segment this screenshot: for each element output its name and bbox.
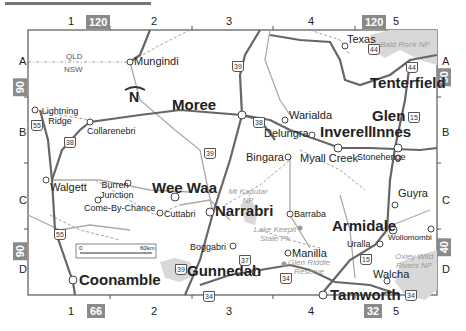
highway-shield-34b: 34 <box>203 291 215 302</box>
grid-row-b: B <box>19 126 26 138</box>
grid-col-1: 1 <box>68 15 74 27</box>
highway-shield-39b: 39 <box>204 148 216 159</box>
park-mt-kaputar: Mt Kaputar NP <box>228 187 268 205</box>
park-lake-keepit: Lake Keepit State Pk <box>250 225 300 243</box>
town-delungra[interactable]: Delungra <box>264 128 309 139</box>
town-moree[interactable]: Moree <box>172 97 216 112</box>
scale-start: 0 <box>79 245 82 251</box>
grid-row-d: D <box>19 263 27 275</box>
highway-shield-44b: 44 <box>406 62 418 73</box>
grid-col-4-bottom: 4 <box>308 305 314 317</box>
grid-row-a-right: A <box>442 55 449 67</box>
town-cuttabri[interactable]: Cuttabri <box>164 210 196 219</box>
town-gunnedah[interactable]: Gunnedah <box>187 263 261 278</box>
grid-row-a: A <box>19 55 26 67</box>
highway-shield-34d: 34 <box>405 290 417 301</box>
town-wollomombi[interactable]: Wollomombi <box>388 234 432 242</box>
highway-shield-38a: 38 <box>253 117 265 128</box>
town-burren-junction[interactable]: Burren Junction <box>100 180 130 200</box>
state-label-qld: QLD <box>66 53 82 61</box>
town-barraba[interactable]: Barraba <box>294 210 326 219</box>
park-oxley-wild-rivers: Oxley Wild Rivers NP <box>390 252 438 270</box>
town-mungindi[interactable]: Mungindi <box>134 56 179 67</box>
page-ref-right-bottom[interactable]: 40 <box>437 238 451 256</box>
town-bingara[interactable]: Bingara <box>246 152 284 163</box>
town-stonehenge[interactable]: Stonehenge <box>357 153 406 162</box>
grid-col-4: 4 <box>308 15 314 27</box>
page-ref-top-right[interactable]: 120 <box>362 15 386 29</box>
grid-col-5: 5 <box>393 15 399 27</box>
page-ref-left-top[interactable]: 90 <box>13 78 27 96</box>
town-tamworth[interactable]: Tamworth <box>330 287 401 302</box>
highway-shield-34a: 34 <box>280 273 292 284</box>
town-guyra[interactable]: Guyra <box>398 188 428 199</box>
town-walgett[interactable]: Walgett <box>50 182 87 193</box>
scale-end: 60km <box>140 245 155 251</box>
town-collarenebri[interactable]: Collarenebri <box>87 127 136 136</box>
town-narrabri[interactable]: Narrabri <box>215 203 273 218</box>
town-walcha[interactable]: Walcha <box>373 269 409 280</box>
highway-shield-55b: 55 <box>54 229 66 240</box>
grid-col-5-bottom: 5 <box>393 305 399 317</box>
grid-row-b-right: B <box>442 126 449 138</box>
grid-col-3-bottom: 3 <box>226 305 232 317</box>
highway-shield-55a: 55 <box>31 120 43 131</box>
grid-col-1-bottom: 1 <box>68 305 74 317</box>
town-wee-waa[interactable]: Wee Waa <box>152 180 217 195</box>
grid-row-d-right: D <box>442 263 450 275</box>
highway-shield-39a: 39 <box>232 61 244 72</box>
highway-shield-15a: 15 <box>408 112 420 123</box>
town-boggabri[interactable]: Boggabri <box>190 243 226 252</box>
grid-row-c-right: C <box>442 194 450 206</box>
town-uralla[interactable]: Uralla <box>347 240 371 249</box>
town-warialda[interactable]: Warialda <box>289 110 332 121</box>
state-label-nsw: NSW <box>64 66 83 74</box>
town-tenterfield[interactable]: Tenterfield <box>370 75 446 90</box>
town-myall-creek[interactable]: Myall Creek <box>300 153 358 164</box>
highway-shield-38b: 38 <box>64 137 76 148</box>
park-bald-rock: Bald Rock NP <box>380 41 430 49</box>
grid-col-2: 2 <box>151 15 157 27</box>
page-ref-bottom-left[interactable]: 66 <box>87 304 105 318</box>
town-armidale[interactable]: Armidale <box>332 218 396 233</box>
highway-shield-44a: 44 <box>368 44 380 55</box>
highway-shield-15b: 15 <box>360 254 372 265</box>
town-lightning-ridge[interactable]: Lightning Ridge <box>40 106 80 126</box>
grid-col-3: 3 <box>226 15 232 27</box>
highway-shield-39c: 39 <box>175 264 187 275</box>
grid-row-c: C <box>19 194 27 206</box>
highway-shield-37: 37 <box>239 255 251 266</box>
page-ref-bottom-right[interactable]: 32 <box>364 304 382 318</box>
page-ref-top-left[interactable]: 120 <box>86 15 110 29</box>
town-come-by-chance[interactable]: Come-By-Chance <box>84 204 156 213</box>
page-ref-left-bottom[interactable]: 90 <box>13 242 27 260</box>
north-arrow-label: N <box>129 90 139 104</box>
map-canvas[interactable] <box>0 0 466 331</box>
town-coonamble[interactable]: Coonamble <box>79 272 161 287</box>
park-glen-riddle: Glen Riddle Reserve <box>285 258 333 276</box>
grid-col-2-bottom: 2 <box>151 305 157 317</box>
town-inverell[interactable]: Inverell <box>320 124 373 139</box>
